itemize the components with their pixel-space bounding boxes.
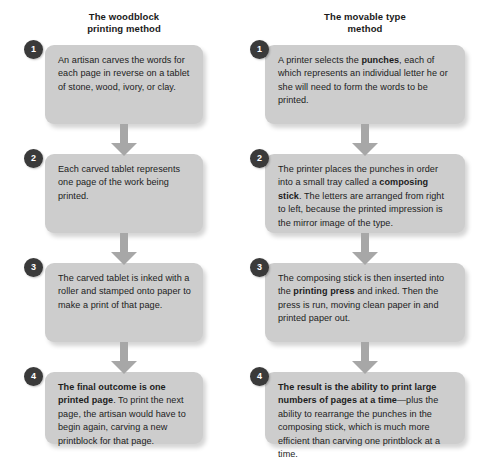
step-number-badge: 4 [250, 367, 269, 386]
step-text: The result is the ability to print large… [278, 381, 454, 461]
column-woodblock: 1 An artisan carves the words for each p… [0, 0, 247, 468]
column-movable-type: 1 A printer selects the punches, each of… [247, 0, 494, 468]
step-text: The composing stick is then inserted int… [278, 272, 454, 326]
connector-arrow-down [111, 233, 137, 265]
step-number-badge: 1 [24, 40, 43, 59]
step-box: The carved tablet is inked with a roller… [45, 263, 203, 342]
step-number-badge: 2 [250, 149, 269, 168]
connector-arrow-down [352, 124, 378, 156]
connector-arrow-down [111, 342, 137, 374]
step-box: An artisan carves the words for each pag… [45, 45, 203, 124]
step-box: The final outcome is one printed page. T… [45, 372, 203, 444]
connector-arrow-down [111, 124, 137, 156]
step-text: The carved tablet is inked with a roller… [58, 272, 192, 312]
step-number-badge: 4 [24, 367, 43, 386]
step-box: The composing stick is then inserted int… [265, 263, 465, 342]
step-text: The printer places the punches in order … [278, 163, 454, 230]
step-number-badge: 3 [250, 258, 269, 277]
step-text: An artisan carves the words for each pag… [58, 54, 192, 94]
step-box: Each carved tablet represents one page o… [45, 154, 203, 233]
step-number-badge: 2 [24, 149, 43, 168]
step-number-badge: 3 [24, 258, 43, 277]
step-text: A printer selects the punches, each of w… [278, 54, 454, 108]
flowchart-diagram: The woodblock printing method The movabl… [0, 0, 494, 468]
step-number-badge: 1 [250, 40, 269, 59]
step-box: The result is the ability to print large… [265, 372, 465, 444]
connector-arrow-down [352, 342, 378, 374]
step-text: The final outcome is one printed page. T… [58, 381, 192, 448]
connector-arrow-down [352, 233, 378, 265]
step-text: Each carved tablet represents one page o… [58, 163, 192, 203]
step-box: The printer places the punches in order … [265, 154, 465, 233]
step-box: A printer selects the punches, each of w… [265, 45, 465, 124]
